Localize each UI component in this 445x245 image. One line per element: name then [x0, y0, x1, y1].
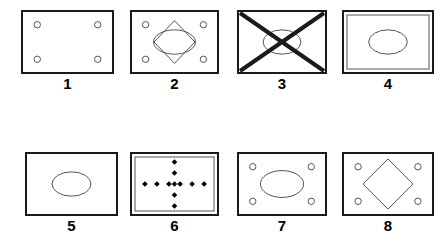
small-circle-2	[308, 164, 314, 170]
panel-label-4: 4	[342, 76, 434, 92]
diamond-center	[172, 181, 178, 187]
panel-4[interactable]	[342, 10, 434, 74]
diamond-down-2	[172, 203, 178, 209]
panel-1[interactable]	[21, 10, 114, 74]
panel-4-figure	[342, 10, 434, 74]
panel-label-5: 5	[25, 218, 118, 234]
small-circle-3	[355, 198, 361, 204]
small-circle-1	[34, 22, 40, 28]
panel-2[interactable]	[130, 10, 219, 74]
small-circle-1	[250, 164, 256, 170]
small-circle-3	[34, 56, 40, 62]
panel-label-2: 2	[130, 76, 219, 92]
small-circle-2	[95, 22, 101, 28]
ellipse-outline	[52, 172, 91, 196]
panel-6-figure	[130, 152, 219, 216]
panel-3[interactable]	[237, 10, 327, 74]
panel-label-1: 1	[21, 76, 114, 92]
diamond-outline	[154, 21, 195, 64]
panel-label-7: 7	[237, 218, 327, 234]
diamond-left-1	[154, 181, 160, 187]
diamond-outline	[363, 159, 413, 209]
panel-7-figure	[237, 152, 327, 216]
panel-label-8: 8	[342, 218, 434, 234]
inner-rectangle	[347, 15, 429, 69]
figure-sheet: 12345678	[0, 0, 445, 245]
panel-7[interactable]	[237, 152, 327, 216]
small-circle-1	[355, 164, 361, 170]
small-circle-1	[142, 22, 148, 28]
small-circle-2	[200, 22, 206, 28]
panel-2-figure	[130, 10, 219, 74]
panel-label-6: 6	[130, 218, 219, 234]
diamond-up-1	[172, 170, 178, 176]
diamond-right-2	[201, 181, 207, 187]
panel-3-figure	[237, 10, 327, 74]
panel-5[interactable]	[25, 152, 118, 216]
diamond-center-right	[177, 181, 183, 187]
panel-5-figure	[25, 152, 118, 216]
panel-8[interactable]	[342, 152, 434, 216]
small-circle-4	[200, 56, 206, 62]
diamond-down-1	[172, 192, 178, 198]
panel-label-3: 3	[237, 76, 327, 92]
diamond-up-2	[172, 159, 178, 165]
diamond-left-2	[142, 181, 148, 187]
panel-6[interactable]	[130, 152, 219, 216]
small-circle-2	[415, 164, 421, 170]
panel-8-figure	[342, 152, 434, 216]
ellipse-outline	[154, 30, 196, 54]
small-circle-3	[250, 198, 256, 204]
ellipse-outline	[260, 171, 303, 198]
small-circle-4	[95, 56, 101, 62]
panel-1-figure	[21, 10, 114, 74]
small-circle-3	[142, 56, 148, 62]
diamond-center-left	[166, 181, 172, 187]
small-circle-4	[415, 198, 421, 204]
small-circle-4	[308, 198, 314, 204]
ellipse-outline	[369, 30, 408, 54]
diamond-right-1	[189, 181, 195, 187]
